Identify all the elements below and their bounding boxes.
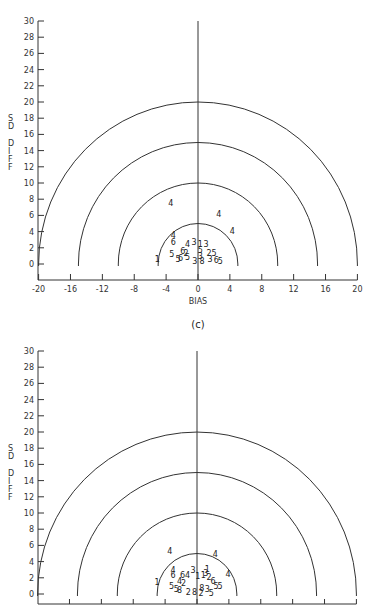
data-point: 5 <box>169 250 174 259</box>
data-point: 5 <box>209 589 214 598</box>
data-point: 8 <box>199 257 204 266</box>
data-point: 4 <box>226 570 231 579</box>
panel-caption: (c) <box>191 319 204 330</box>
data-point: 1 <box>155 255 160 264</box>
x-tick-label: -20 <box>32 285 45 294</box>
x-tick-label: -8 <box>130 285 138 294</box>
y-tick-label: 8 <box>29 195 34 204</box>
y-tick-label: 12 <box>24 493 34 502</box>
data-point: 1 <box>155 578 160 587</box>
x-tick-label: 0 <box>195 285 200 294</box>
data-point: 4 <box>213 550 218 559</box>
x-tick-label: 16 <box>320 285 330 294</box>
chart-panel-c: 024681012141618202224262830SDDIFF-20-16-… <box>8 17 362 330</box>
x-tick-label: -4 <box>162 285 170 294</box>
y-tick-label: 0 <box>29 590 34 599</box>
y-tick-label: 30 <box>24 347 34 356</box>
data-point: 3 <box>192 257 197 266</box>
data-point: 8 <box>177 586 182 595</box>
y-tick-label: 4 <box>29 228 34 237</box>
y-tick-label: 24 <box>24 396 34 405</box>
y-tick-label: 4 <box>29 558 34 567</box>
data-point: 4 <box>167 547 172 556</box>
x-axis-title: BIAS <box>189 297 207 306</box>
figure: 024681012141618202224262830SDDIFF-20-16-… <box>0 0 379 605</box>
data-point: 8 <box>192 588 197 597</box>
x-tick-label: 20 <box>352 285 362 294</box>
data-point: 6 <box>171 571 176 580</box>
x-tick-label: -12 <box>96 285 109 294</box>
y-tick-label: 16 <box>24 130 34 139</box>
data-point: 2 <box>186 588 191 597</box>
y-axis-title-letter: D <box>8 452 14 461</box>
data-point: 4 <box>168 199 173 208</box>
y-axis-title-letter: D <box>8 122 14 131</box>
y-tick-label: 10 <box>24 179 34 188</box>
y-tick-label: 2 <box>29 244 34 253</box>
x-tick-label: -16 <box>64 285 77 294</box>
y-axis-title-letter: F <box>8 163 13 172</box>
y-tick-label: 2 <box>29 574 34 583</box>
y-tick-label: 10 <box>24 509 34 518</box>
data-point: 3 <box>207 255 212 264</box>
data-point: 4 <box>185 240 190 249</box>
x-tick-label: 4 <box>227 285 232 294</box>
data-point: 4 <box>230 227 235 236</box>
data-point: 3 <box>191 238 196 247</box>
y-tick-label: 26 <box>24 49 34 58</box>
y-tick-label: 22 <box>24 82 34 91</box>
data-point: 5 <box>218 257 223 266</box>
y-tick-label: 8 <box>29 525 34 534</box>
data-point: 1 <box>195 572 200 581</box>
y-tick-label: 28 <box>24 363 34 372</box>
y-axis-title-letter: F <box>8 493 13 502</box>
data-point: 5 <box>185 253 190 262</box>
y-tick-label: 12 <box>24 163 34 172</box>
data-point: 5 <box>218 582 223 591</box>
y-tick-label: 24 <box>24 66 34 75</box>
data-point: 4 <box>185 571 190 580</box>
data-point: 2 <box>198 589 203 598</box>
y-tick-label: 26 <box>24 379 34 388</box>
chart-panel-d: 024681012141618202224262830SDDIFF4444664… <box>8 347 356 604</box>
x-tick-label: 8 <box>259 285 264 294</box>
y-tick-label: 6 <box>29 211 34 220</box>
y-tick-label: 0 <box>29 260 34 269</box>
y-tick-label: 22 <box>24 412 34 421</box>
y-tick-label: 28 <box>24 33 34 42</box>
data-point: 3 <box>203 240 208 249</box>
y-tick-label: 20 <box>24 98 34 107</box>
y-tick-label: 18 <box>24 114 34 123</box>
y-tick-label: 14 <box>24 147 34 156</box>
y-tick-label: 6 <box>29 541 34 550</box>
y-tick-label: 30 <box>24 17 34 26</box>
y-tick-label: 20 <box>24 428 34 437</box>
x-tick-label: 12 <box>289 285 299 294</box>
y-tick-label: 14 <box>24 477 34 486</box>
data-point: 6 <box>171 238 176 247</box>
data-point: 4 <box>216 210 221 219</box>
y-tick-label: 16 <box>24 460 34 469</box>
y-tick-label: 18 <box>24 444 34 453</box>
